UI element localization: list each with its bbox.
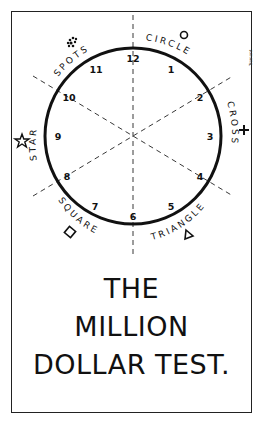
circle-symbol-icon bbox=[181, 32, 188, 39]
sector-label-circle: CIRCLE bbox=[145, 32, 193, 57]
number-3: 3 bbox=[207, 131, 214, 142]
sector-label-cross: CROSS bbox=[225, 100, 240, 146]
title-line-2: MILLION bbox=[11, 308, 252, 346]
number-10: 10 bbox=[62, 92, 76, 103]
number-12: 12 bbox=[126, 53, 139, 64]
card-title: THE MILLION DOLLAR TEST. bbox=[11, 270, 252, 384]
artist-signature: Tremont bbox=[248, 49, 253, 67]
number-7: 7 bbox=[92, 201, 99, 212]
number-11: 11 bbox=[89, 64, 102, 75]
triangle-symbol-icon bbox=[185, 230, 193, 239]
sector-label-star: STAR bbox=[27, 127, 38, 162]
number-9: 9 bbox=[55, 131, 62, 142]
number-4: 4 bbox=[197, 171, 204, 182]
square-symbol-icon bbox=[64, 226, 75, 237]
title-line-1: THE bbox=[11, 270, 252, 308]
star-symbol-icon bbox=[15, 134, 29, 147]
title-line-3: DOLLAR TEST. bbox=[11, 346, 252, 384]
cross-symbol-icon bbox=[239, 125, 249, 135]
number-5: 5 bbox=[168, 201, 175, 212]
dial-numbers: 12 1 2 3 4 5 6 7 8 9 10 11 bbox=[55, 53, 214, 222]
number-8: 8 bbox=[64, 171, 71, 182]
number-6: 6 bbox=[130, 211, 137, 222]
number-1: 1 bbox=[168, 64, 175, 75]
number-2: 2 bbox=[197, 92, 204, 103]
spots-symbol-icon bbox=[67, 37, 77, 48]
